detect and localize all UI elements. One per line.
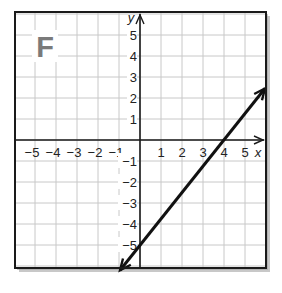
- x-tick-label: −5: [25, 145, 40, 160]
- y-tick-label: 4: [130, 49, 137, 64]
- x-tick-label: 4: [220, 145, 227, 160]
- graph-figure: F−5−4−3−2−112345−5−4−3−2−112345xy: [0, 0, 282, 293]
- x-tick-label: −2: [88, 145, 103, 160]
- x-tick-label: 3: [199, 145, 206, 160]
- y-tick-label: −3: [122, 196, 137, 211]
- y-tick-label: 3: [130, 70, 137, 85]
- y-tick-label: 5: [130, 28, 137, 43]
- x-tick-label: −3: [67, 145, 82, 160]
- panel-label: F: [36, 31, 54, 63]
- y-tick-label: −2: [122, 175, 137, 190]
- y-tick-label: −4: [122, 217, 137, 232]
- coordinate-plane: F−5−4−3−2−112345−5−4−3−2−112345xy: [0, 0, 282, 293]
- x-tick-label: 1: [157, 145, 164, 160]
- x-tick-label: 2: [178, 145, 185, 160]
- y-tick-label: −1: [122, 154, 137, 169]
- x-axis-label: x: [254, 145, 262, 160]
- x-tick-label: 5: [241, 145, 248, 160]
- x-tick-label: −4: [46, 145, 61, 160]
- y-tick-label: 1: [130, 112, 137, 127]
- y-tick-label: 2: [130, 91, 137, 106]
